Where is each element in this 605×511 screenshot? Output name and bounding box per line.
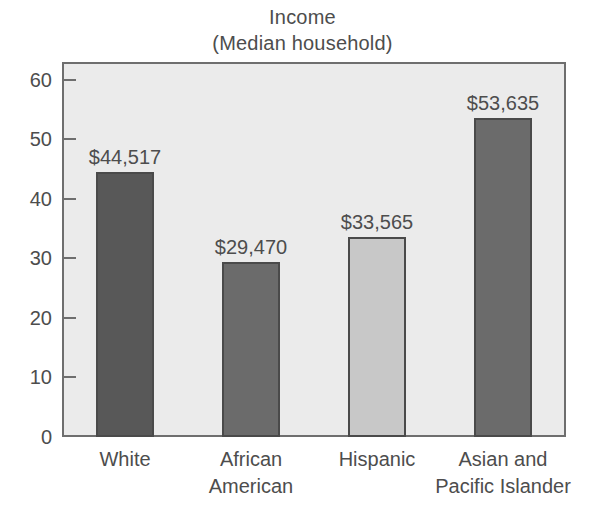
y-axis-tick-label: 40 [0,189,52,209]
chart-title: Income (Median household) [0,4,605,56]
bar-value-label: $33,565 [317,211,437,233]
bar[interactable] [348,237,406,437]
y-axis-tick-label: 20 [0,308,52,328]
y-axis-tick [62,198,76,200]
y-axis-tick-label: 60 [0,70,52,90]
y-axis-tick [62,376,76,378]
x-axis-label-line: American [166,473,336,500]
y-axis-tick-label: 50 [0,129,52,149]
y-axis-tick-label: 10 [0,367,52,387]
y-axis-labels: 0102030405060 [0,0,52,511]
y-axis-tick [62,257,76,259]
y-axis-tick-label: 0 [0,427,52,447]
bar-value-label: $53,635 [443,92,563,114]
bar-value-label: $44,517 [65,146,185,168]
chart-title-subtitle: (Median household) [0,30,605,56]
bar[interactable] [222,262,280,437]
x-axis-label-line: Pacific Islander [418,473,588,500]
x-axis-category-label: Asian andPacific Islander [418,446,588,500]
y-axis-tick [62,138,76,140]
bar-value-label: $29,470 [191,236,311,258]
x-axis-label-line: Asian and [418,446,588,473]
y-axis-tick [62,317,76,319]
y-axis-tick-label: 30 [0,248,52,268]
chart-title-main: Income [0,4,605,30]
bar[interactable] [96,172,154,437]
y-axis-tick [62,79,76,81]
bar[interactable] [474,118,532,437]
